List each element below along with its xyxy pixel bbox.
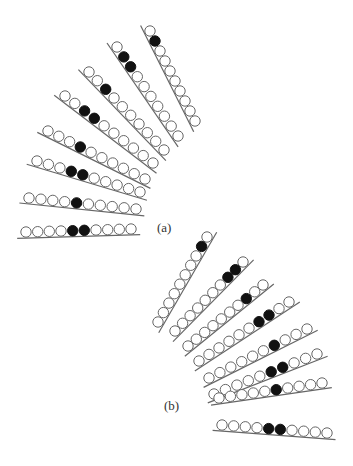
open-bead [294, 381, 304, 391]
open-bead [112, 180, 122, 190]
open-bead [108, 158, 118, 168]
open-bead [312, 349, 322, 359]
open-bead [140, 174, 150, 184]
open-bead [224, 336, 234, 346]
open-bead [214, 343, 224, 353]
open-bead [129, 169, 139, 179]
open-bead [153, 101, 163, 111]
filled-bead [79, 225, 89, 235]
open-bead [322, 428, 332, 438]
open-bead [258, 346, 268, 356]
open-bead [101, 177, 111, 187]
open-bead [300, 353, 310, 363]
open-bead [83, 199, 93, 209]
open-bead [55, 163, 65, 173]
filled-bead [271, 385, 281, 395]
filled-bead [150, 36, 160, 46]
open-bead [103, 225, 113, 235]
open-bead [158, 307, 168, 317]
open-bead [114, 224, 124, 234]
open-bead [70, 98, 80, 108]
open-bead [302, 324, 312, 334]
open-bead [289, 358, 299, 368]
open-bead [204, 349, 214, 359]
open-bead [153, 317, 163, 327]
bead-row [213, 420, 336, 440]
open-bead [43, 159, 53, 169]
open-bead [274, 303, 284, 313]
open-bead [118, 163, 128, 173]
filled-bead [79, 106, 89, 116]
filled-bead [78, 170, 88, 180]
open-bead [299, 426, 309, 436]
filled-bead [269, 340, 279, 350]
open-bead [202, 232, 212, 242]
open-bead [134, 119, 144, 129]
open-bead [283, 383, 293, 393]
open-bead [170, 326, 180, 336]
panel-a [17, 26, 200, 239]
open-bead [119, 203, 129, 213]
open-bead [36, 194, 46, 204]
open-bead [248, 388, 258, 398]
open-bead [165, 66, 175, 76]
filled-bead [119, 52, 129, 62]
open-bead [191, 251, 201, 261]
open-bead [151, 136, 161, 146]
open-bead [305, 380, 315, 390]
filled-bead [125, 62, 135, 72]
open-bead [232, 380, 242, 390]
open-bead [135, 187, 145, 197]
open-bead [123, 183, 133, 193]
filled-bead [196, 241, 206, 251]
bead-row [19, 193, 144, 216]
open-bead [226, 362, 236, 372]
open-bead [160, 56, 170, 66]
open-bead [33, 227, 43, 237]
open-bead [99, 121, 109, 131]
open-bead [217, 420, 227, 430]
open-bead [131, 204, 141, 214]
open-bead [291, 329, 301, 339]
open-bead [43, 126, 53, 136]
open-bead [280, 335, 290, 345]
open-bead [287, 425, 297, 435]
filled-bead [89, 113, 99, 123]
bead-row [141, 26, 201, 132]
open-bead [24, 193, 34, 203]
open-bead [91, 225, 101, 235]
filled-bead [266, 367, 276, 377]
open-bead [32, 156, 42, 166]
open-bead [89, 173, 99, 183]
open-bead [128, 143, 138, 153]
open-bead [92, 76, 102, 86]
open-bead [44, 226, 54, 236]
open-bead [214, 393, 224, 403]
open-bead [310, 427, 320, 437]
open-bead [109, 128, 119, 138]
open-bead [186, 260, 196, 270]
open-bead [170, 76, 180, 86]
open-bead [190, 116, 200, 126]
open-bead [225, 307, 235, 317]
filled-bead [278, 362, 288, 372]
open-bead [159, 145, 169, 155]
open-bead [166, 121, 176, 131]
open-bead [204, 373, 214, 383]
open-bead [64, 137, 74, 147]
open-bead [234, 330, 244, 340]
open-bead [138, 150, 148, 160]
filled-bead [66, 166, 76, 176]
open-bead [54, 131, 64, 141]
open-bead [159, 111, 169, 121]
open-bead [48, 195, 58, 205]
open-bead [97, 153, 107, 163]
bead-row [211, 378, 332, 405]
figure [0, 0, 353, 466]
open-bead [56, 226, 66, 236]
open-bead [126, 110, 136, 120]
open-bead [132, 72, 142, 82]
filled-bead [264, 423, 274, 433]
open-bead [255, 371, 265, 381]
panel-a-label: (a) [157, 220, 171, 236]
